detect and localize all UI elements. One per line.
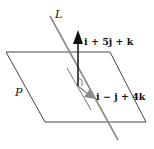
normal-vector-label: i + 5j + k [84,36,134,47]
normal-arrowhead-icon [73,30,83,44]
projection-line [67,68,91,110]
line-label: L [54,8,62,21]
direction-vector-label: i − j + 4k [96,91,146,102]
plane-line-diagram: L P i + 5j + k i − j + 4k [0,0,154,149]
diagram-svg: L P i + 5j + k i − j + 4k [0,0,154,149]
line-l [50,16,118,140]
plane-label: P [14,86,23,99]
